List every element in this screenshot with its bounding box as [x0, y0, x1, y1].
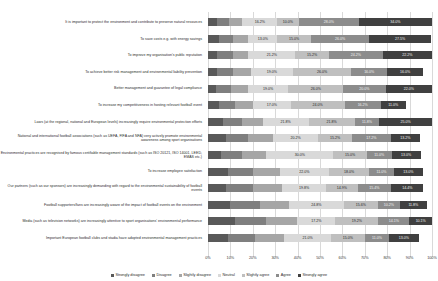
stacked-bar[interactable]: 17.0%24.0%16.2%11.0%: [208, 101, 432, 109]
stacked-bar[interactable]: 13.0%15.0%26.0%27.5%: [208, 35, 432, 43]
bar-segment[interactable]: 22.0%: [386, 85, 432, 93]
bar-segment[interactable]: 17.2%: [297, 217, 335, 225]
stacked-bar[interactable]: 21.2%15.2%24.2%22.2%: [208, 51, 432, 59]
bar-segment[interactable]: [231, 85, 248, 93]
stacked-bar[interactable]: 19.0%26.0%16.0%16.0%: [208, 68, 432, 76]
bar-segment[interactable]: [221, 151, 241, 159]
bar-segment[interactable]: 25.0%: [379, 118, 432, 126]
bar-segment[interactable]: 11.0%: [369, 168, 394, 176]
bar-segment[interactable]: 22.2%: [383, 51, 432, 59]
bar-segment[interactable]: [266, 217, 297, 225]
stacked-bar[interactable]: 30.0%15.0%11.0%13.0%: [208, 151, 432, 159]
bar-segment[interactable]: 27.5%: [369, 35, 431, 43]
bar-segment[interactable]: 15.4%: [358, 184, 392, 192]
bar-segment[interactable]: 15.6%: [344, 201, 378, 209]
bar-segment[interactable]: 20.0%: [343, 85, 385, 93]
legend-item[interactable]: Neutral: [218, 273, 235, 277]
bar-segment[interactable]: 11.0%: [381, 101, 406, 109]
bar-segment[interactable]: [228, 168, 253, 176]
bar-segment[interactable]: 16.0%: [387, 68, 423, 76]
bar-segment[interactable]: 16.2%: [242, 18, 277, 26]
bar-segment[interactable]: 19.0%: [251, 68, 294, 76]
bar-segment[interactable]: [228, 234, 255, 242]
bar-segment[interactable]: [219, 101, 235, 109]
stacked-bar[interactable]: 20.2%15.2%17.2%13.2%: [208, 134, 432, 142]
bar-segment[interactable]: [233, 68, 251, 76]
bar-segment[interactable]: [208, 85, 216, 93]
bar-segment[interactable]: 17.2%: [352, 134, 391, 142]
bar-segment[interactable]: [217, 18, 230, 26]
bar-segment[interactable]: [229, 18, 242, 26]
bar-segment[interactable]: [208, 51, 217, 59]
bar-segment[interactable]: 13.2%: [391, 134, 420, 142]
bar-segment[interactable]: [217, 51, 233, 59]
bar-segment[interactable]: 21.2%: [248, 51, 295, 59]
bar-segment[interactable]: [226, 134, 248, 142]
bar-segment[interactable]: [226, 184, 253, 192]
legend-item[interactable]: Strongly agree: [298, 273, 327, 277]
bar-segment[interactable]: 15.0%: [331, 234, 365, 242]
bar-segment[interactable]: 24.2%: [329, 51, 383, 59]
bar-segment[interactable]: 15.2%: [295, 51, 329, 59]
bar-segment[interactable]: [208, 184, 226, 192]
bar-segment[interactable]: [230, 201, 259, 209]
bar-segment[interactable]: [208, 234, 228, 242]
bar-segment[interactable]: 15.0%: [333, 151, 367, 159]
stacked-bar[interactable]: 19.8%14.9%15.4%14.4%: [208, 184, 432, 192]
bar-segment[interactable]: 34.0%: [359, 18, 432, 26]
bar-segment[interactable]: 16.0%: [351, 68, 387, 76]
bar-segment[interactable]: [208, 18, 217, 26]
stacked-bar[interactable]: 24.8%15.6%10.2%11.8%: [208, 201, 432, 209]
bar-segment[interactable]: 20.2%: [273, 134, 318, 142]
bar-segment[interactable]: 30.0%: [266, 151, 333, 159]
bar-segment[interactable]: 17.0%: [253, 101, 291, 109]
bar-segment[interactable]: 11.0%: [367, 151, 392, 159]
stacked-bar[interactable]: 21.8%21.8%11.8%25.0%: [208, 118, 432, 126]
stacked-bar[interactable]: 22.0%18.0%11.0%13.0%: [208, 168, 432, 176]
bar-segment[interactable]: [255, 234, 284, 242]
bar-segment[interactable]: [260, 201, 289, 209]
bar-segment[interactable]: [233, 51, 249, 59]
bar-segment[interactable]: 11.0%: [365, 234, 390, 242]
bar-segment[interactable]: [233, 35, 249, 43]
bar-segment[interactable]: 10.0%: [277, 18, 298, 26]
bar-segment[interactable]: [208, 35, 219, 43]
bar-segment[interactable]: 18.0%: [329, 168, 369, 176]
bar-segment[interactable]: 19.0%: [248, 85, 288, 93]
bar-segment[interactable]: 19.8%: [282, 184, 326, 192]
bar-segment[interactable]: [208, 168, 228, 176]
legend-item[interactable]: Strongly disagree: [111, 273, 145, 277]
bar-segment[interactable]: 21.8%: [309, 118, 355, 126]
bar-segment[interactable]: 11.8%: [400, 201, 426, 209]
bar-segment[interactable]: [208, 151, 221, 159]
bar-segment[interactable]: [235, 101, 253, 109]
bar-segment[interactable]: [217, 68, 233, 76]
legend-item[interactable]: Slightly agree: [242, 273, 270, 277]
bar-segment[interactable]: [242, 151, 267, 159]
bar-segment[interactable]: [253, 168, 280, 176]
bar-segment[interactable]: 14.9%: [326, 184, 357, 192]
bar-segment[interactable]: [235, 217, 266, 225]
bar-segment[interactable]: 24.0%: [291, 101, 345, 109]
stacked-bar[interactable]: 19.0%26.0%20.0%22.0%: [208, 85, 432, 93]
bar-segment[interactable]: [248, 134, 273, 142]
bar-segment[interactable]: 13.0%: [392, 151, 421, 159]
bar-segment[interactable]: 26.0%: [293, 68, 351, 76]
bar-segment[interactable]: [216, 85, 231, 93]
legend-item[interactable]: Agree: [276, 273, 291, 277]
bar-segment[interactable]: 21.8%: [263, 118, 309, 126]
bar-segment[interactable]: 26.0%: [311, 35, 369, 43]
bar-segment[interactable]: [208, 68, 217, 76]
bar-segment[interactable]: 22.0%: [280, 168, 329, 176]
bar-segment[interactable]: 10.1%: [409, 217, 432, 225]
stacked-bar[interactable]: 17.2%19.2%14.1%10.1%: [208, 217, 432, 225]
stacked-bar[interactable]: 16.2%10.0%28.0%34.0%: [208, 18, 432, 26]
bar-segment[interactable]: 14.1%: [378, 217, 409, 225]
bar-segment[interactable]: [208, 118, 223, 126]
bar-segment[interactable]: 13.0%: [394, 168, 423, 176]
bar-segment[interactable]: 14.4%: [391, 184, 423, 192]
bar-segment[interactable]: 26.0%: [288, 85, 343, 93]
bar-segment[interactable]: [253, 184, 282, 192]
bar-segment[interactable]: 19.2%: [335, 217, 378, 225]
legend-item[interactable]: Disagree: [152, 273, 172, 277]
